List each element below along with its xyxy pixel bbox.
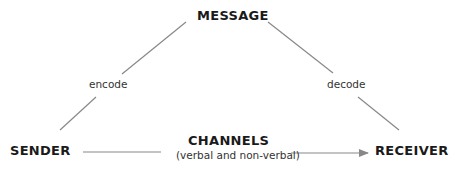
edge-label-encode: encode <box>89 78 127 90</box>
encode-line-lower <box>60 97 96 130</box>
decode-line-lower <box>358 97 399 130</box>
encode-line-upper <box>122 22 186 74</box>
edge-label-decode: decode <box>327 78 365 90</box>
channels-subtitle: (verbal and non-verbal) <box>176 149 300 161</box>
node-message: MESSAGE <box>197 8 269 23</box>
node-receiver: RECEIVER <box>375 143 449 158</box>
node-sender: SENDER <box>10 143 71 158</box>
node-channels: CHANNELS <box>188 133 269 148</box>
decode-line-upper <box>268 22 333 73</box>
